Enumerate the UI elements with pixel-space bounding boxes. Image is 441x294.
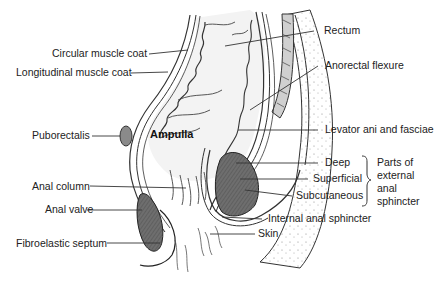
label-levator-ani: Levator ani and fasciae [325, 124, 434, 135]
label-external-anal-sphincter-group: Parts of external anal sphincter [377, 156, 420, 208]
anorectal-diagram: Rectum Circular muscle coat Longitudinal… [0, 0, 441, 294]
label-skin: Skin [258, 228, 278, 239]
bracket-brace [362, 156, 371, 206]
label-anal-column: Anal column [32, 181, 90, 192]
label-circular-muscle-coat: Circular muscle coat [52, 48, 147, 59]
left-external-sphincter [137, 194, 175, 266]
puborectalis-shape [120, 126, 132, 146]
anatomy-illustration [0, 0, 441, 294]
label-puborectalis: Puborectalis [32, 130, 90, 141]
label-anorectal-flexure: Anorectal flexure [325, 60, 404, 71]
group-line-1: Parts of [377, 156, 420, 169]
label-superficial: Superficial [313, 173, 362, 184]
label-longitudinal-muscle-coat: Longitudinal muscle coat [16, 67, 132, 78]
label-ampulla: Ampulla [150, 129, 193, 140]
label-rectum: Rectum [324, 25, 360, 36]
rectum-lumen [148, 10, 265, 181]
group-line-4: sphincter [377, 195, 420, 208]
label-deep: Deep [325, 157, 350, 168]
label-internal-anal-sphincter: Internal anal sphincter [268, 213, 371, 224]
label-subcutaneous: Subcutaneous [296, 190, 363, 201]
perianal-skin [175, 226, 222, 272]
group-line-3: anal [377, 182, 420, 195]
label-anal-valve: Anal valve [45, 204, 93, 215]
sacral-column [272, 14, 294, 118]
group-line-2: external [377, 169, 420, 182]
label-fibroelastic-septum: Fibroelastic septum [16, 238, 107, 249]
